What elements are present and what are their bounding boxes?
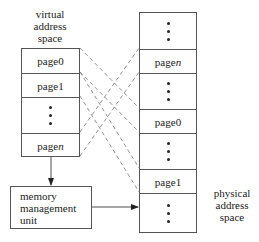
mapping-lines: [0, 0, 259, 242]
mapping-pagen: [80, 48, 139, 132]
mapping-page0: [80, 48, 139, 108]
